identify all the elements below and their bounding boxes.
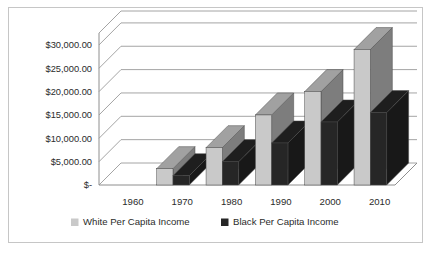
chart-plot-area: $-$5,000.00$10,000.00$15,000.00$20,000.0…: [9, 8, 422, 242]
gridline-connector-15000: [99, 93, 121, 115]
legend-swatch-2: [221, 219, 229, 227]
legend-label-2: Black Per Capita Income: [233, 216, 339, 227]
chart-frame: $-$5,000.00$10,000.00$15,000.00$20,000.0…: [8, 7, 423, 243]
y-axis-tick-label: $-: [84, 180, 92, 190]
y-axis-tick-label: $15,000.00: [45, 110, 92, 120]
y-axis-tick-label: $20,000.00: [45, 87, 92, 97]
gridline-connector-25000: [99, 46, 121, 68]
x-axis-tick-label: 1960: [122, 196, 143, 207]
y-axis-tick-label: $10,000.00: [45, 134, 92, 144]
gridline-connector-30000: [99, 23, 121, 45]
x-axis-tick-label: 1980: [221, 196, 242, 207]
legend-label-1: White Per Capita Income: [83, 216, 190, 227]
legend-swatch-1: [71, 219, 79, 227]
gridline-connector-20000: [99, 70, 121, 92]
y-axis-tick-label: $5,000.00: [51, 157, 92, 167]
y-axis-tick-label: $25,000.00: [45, 64, 92, 74]
gridline-connector-0: [99, 163, 121, 185]
x-axis-tick-label: 2010: [369, 196, 390, 207]
x-axis-tick-label: 1970: [172, 196, 193, 207]
x-axis-tick-label: 2000: [320, 196, 341, 207]
x-axis-tick-label: 1990: [270, 196, 291, 207]
three-d-column-chart: $-$5,000.00$10,000.00$15,000.00$20,000.0…: [9, 8, 422, 242]
gridline-connector-5000: [99, 140, 121, 162]
gridline-connector-10000: [99, 116, 121, 138]
y-axis-tick-label: $30,000.00: [45, 40, 92, 50]
